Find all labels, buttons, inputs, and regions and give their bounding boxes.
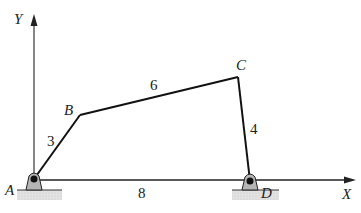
point-label-d: D: [260, 185, 272, 201]
pivot-d: [242, 174, 258, 190]
x-axis: [34, 177, 356, 184]
length-label-ad: 8: [138, 185, 146, 201]
y-axis-arrow-icon: [31, 14, 38, 26]
length-label-bc: 6: [150, 77, 158, 93]
link-cd: [238, 77, 250, 181]
ground-d: [232, 190, 279, 200]
link-ab: [34, 115, 80, 179]
four-bar-linkage-diagram: Y X A B C D 3 6 4 8: [0, 0, 361, 213]
y-axis-label: Y: [14, 11, 24, 27]
length-label-cd: 4: [250, 121, 258, 137]
point-label-b: B: [64, 102, 73, 118]
link-bc: [80, 77, 238, 115]
y-axis: [31, 14, 38, 179]
point-label-c: C: [236, 57, 247, 73]
x-axis-arrow-icon: [344, 177, 356, 184]
point-label-a: A: [4, 182, 15, 198]
pivot-a: [26, 173, 42, 190]
ground-a: [17, 190, 62, 200]
length-label-ab: 3: [47, 133, 55, 149]
x-axis-label: X: [341, 186, 352, 202]
pin-d-icon: [247, 178, 254, 185]
pin-a-icon: [31, 176, 38, 183]
